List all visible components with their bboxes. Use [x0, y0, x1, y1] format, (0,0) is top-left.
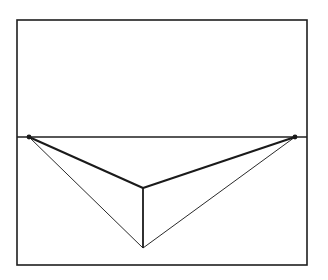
diagram-background — [0, 0, 328, 280]
diagram-canvas — [0, 0, 328, 280]
right-vanishing-point-dot — [293, 135, 298, 140]
left-vanishing-point-dot — [27, 135, 32, 140]
perspective-diagram — [0, 0, 328, 280]
